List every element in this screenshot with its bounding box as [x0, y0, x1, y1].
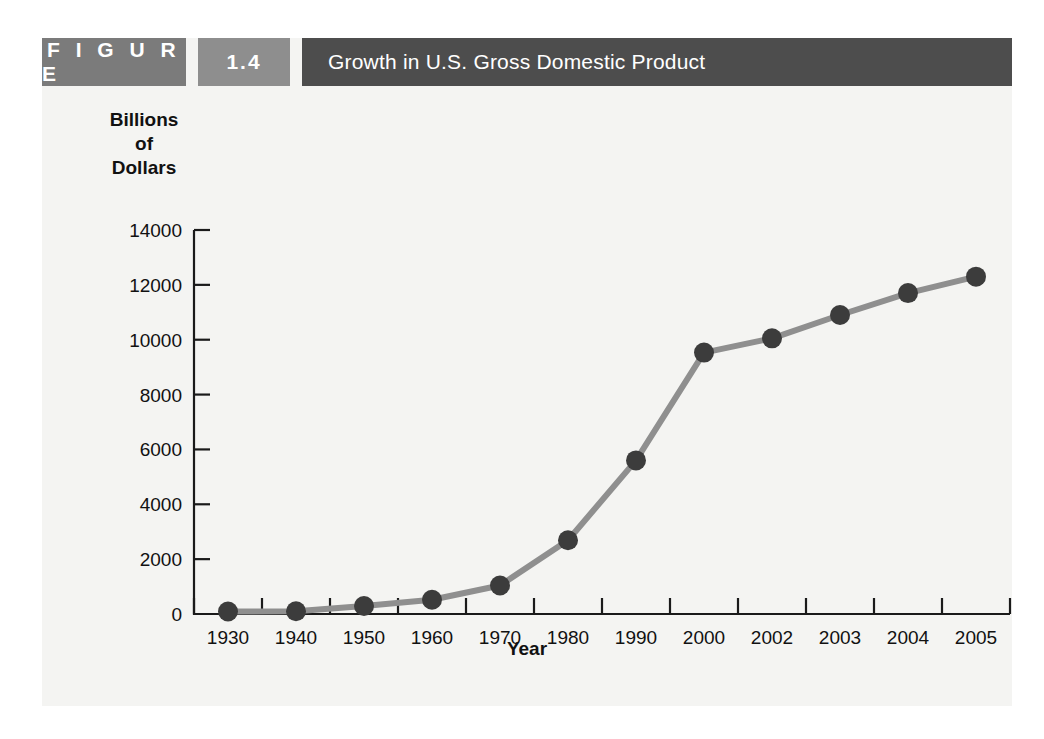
- figure-title: Growth in U.S. Gross Domestic Product: [302, 38, 1012, 86]
- data-point: [694, 343, 714, 363]
- x-axis-title: Year: [42, 638, 1012, 660]
- y-tick-label-group: 02000400060008000100001200014000: [129, 220, 182, 625]
- gdp-series-line: [228, 277, 976, 612]
- y-tick-label: 10000: [129, 330, 182, 351]
- figure-header: F I G U R E 1.4 Growth in U.S. Gross Dom…: [42, 38, 1012, 86]
- header-divider: [186, 38, 198, 86]
- y-tick-label: 4000: [140, 494, 182, 515]
- y-tick-mark-group: [194, 230, 210, 559]
- data-point: [490, 575, 510, 595]
- data-point: [830, 305, 850, 325]
- y-tick-label: 12000: [129, 275, 182, 296]
- y-tick-label: 14000: [129, 220, 182, 241]
- y-tick-label: 0: [171, 604, 182, 625]
- data-point: [626, 450, 646, 470]
- chart-area: Billions of Dollars 02000400060008000100…: [42, 86, 1012, 706]
- data-point: [354, 596, 374, 616]
- y-tick-label: 2000: [140, 549, 182, 570]
- figure-number-block: 1.4: [198, 38, 290, 86]
- data-point: [286, 601, 306, 621]
- data-point: [762, 328, 782, 348]
- data-point: [422, 590, 442, 610]
- figure-label-block: F I G U R E: [42, 38, 186, 86]
- y-tick-label: 8000: [140, 385, 182, 406]
- data-point: [898, 283, 918, 303]
- header-divider-2: [290, 38, 302, 86]
- data-point: [966, 267, 986, 287]
- line-chart-plot: 02000400060008000100001200014000 1930194…: [42, 86, 1012, 646]
- y-tick-label: 6000: [140, 439, 182, 460]
- axis-lines: [194, 230, 1010, 614]
- data-point: [218, 602, 238, 622]
- data-point: [558, 530, 578, 550]
- gdp-series-points: [218, 267, 986, 622]
